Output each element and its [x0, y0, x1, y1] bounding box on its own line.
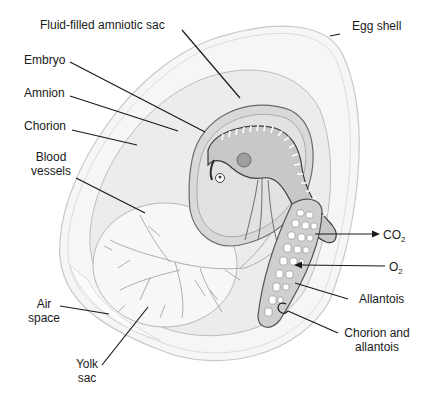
label-air-space-line1: Air	[26, 297, 62, 311]
label-chorion-and-allantois: Chorion and allantois	[337, 326, 417, 354]
label-amnion: Amnion	[24, 86, 65, 100]
label-co2-subscript: 2	[401, 235, 405, 244]
label-egg-shell: Egg shell	[352, 19, 401, 33]
embryo-heart	[237, 153, 251, 167]
label-yolk-sac-line1: Yolk	[70, 357, 104, 371]
label-yolk-sac-line2: sac	[70, 371, 104, 385]
label-o2-subscript: 2	[398, 267, 402, 276]
label-air-space: Air space	[26, 297, 62, 325]
label-co2: CO2	[383, 228, 405, 242]
label-o2-main: O	[389, 260, 398, 274]
label-allantois: Allantois	[359, 292, 404, 306]
label-blood-vessels-line1: Blood	[26, 150, 76, 164]
label-co2-main: CO	[383, 228, 401, 242]
label-fluid-filled-amniotic-sac: Fluid-filled amniotic sac	[40, 18, 165, 32]
label-chorion-allantois-line2: allantois	[337, 340, 417, 354]
label-air-space-line2: space	[26, 311, 62, 325]
label-embryo: Embryo	[24, 53, 65, 67]
label-chorion: Chorion	[24, 119, 66, 133]
label-o2: O2	[389, 260, 403, 274]
label-blood-vessels-line2: vessels	[26, 164, 76, 178]
label-yolk-sac: Yolk sac	[70, 357, 104, 385]
label-blood-vessels: Blood vessels	[26, 150, 76, 178]
label-chorion-allantois-line1: Chorion and	[337, 326, 417, 340]
